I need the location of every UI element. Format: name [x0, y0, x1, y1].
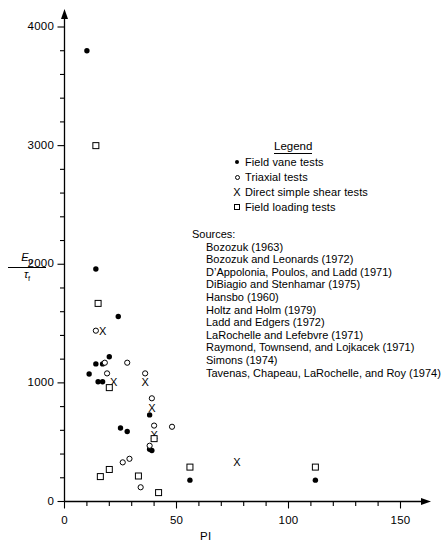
data-point-open-square — [187, 464, 193, 470]
data-point-open-circle — [169, 424, 174, 429]
legend-title: Legend — [274, 140, 312, 154]
filled-circle-icon — [229, 155, 245, 169]
data-point-open-square — [95, 300, 101, 306]
data-point-x: X — [233, 456, 241, 468]
legend-item-label: Field vane tests — [245, 156, 324, 168]
data-point-filled-circle — [125, 429, 130, 434]
data-point-open-square — [106, 385, 112, 391]
x-tick-label-0: 0 — [45, 514, 85, 526]
data-point-filled-circle — [313, 477, 318, 482]
legend-item-1: Field vane tests — [229, 155, 429, 169]
source-item-8: LaRochelle and Lefebvre (1971) — [206, 329, 441, 342]
data-point-open-circle — [147, 443, 152, 448]
legend: Legend Field vane testsTriaxial testsXDi… — [229, 136, 429, 214]
data-point-filled-circle — [84, 48, 89, 53]
source-item-11: Tavenas, Chapeau, LaRochelle, and Roy (1… — [206, 367, 441, 380]
y-tick-label-4000: 4000 — [8, 20, 54, 32]
x-tick-label-150: 150 — [381, 514, 421, 526]
data-point-x: X — [141, 376, 149, 388]
data-point-filled-circle — [86, 371, 91, 376]
open-square-icon — [229, 200, 245, 214]
open-circle-icon — [229, 170, 245, 184]
source-item-7: Ladd and Edgers (1972) — [206, 316, 441, 329]
data-point-filled-circle — [93, 266, 98, 271]
legend-item-label: Triaxial tests — [245, 171, 308, 183]
data-point-open-circle — [138, 485, 143, 490]
data-point-open-circle — [125, 360, 130, 365]
source-item-5: Hansbo (1960) — [206, 291, 441, 304]
data-point-open-circle — [152, 423, 157, 428]
data-point-filled-circle — [93, 361, 98, 366]
data-point-open-circle — [149, 396, 154, 401]
y-tick-label-3000: 3000 — [8, 139, 54, 151]
legend-item-4: Field loading tests — [229, 200, 429, 214]
y-axis-ticks — [58, 27, 65, 502]
source-item-3: D’Appolonia, Poulos, and Ladd (1971) — [206, 266, 441, 279]
data-point-open-circle — [104, 371, 109, 376]
x-axis-arrowhead — [421, 498, 431, 505]
x-icon: X — [229, 185, 245, 199]
data-point-open-square — [135, 473, 141, 479]
data-point-open-circle — [93, 328, 98, 333]
source-item-9: Raymond, Townsend, and Lojkacek (1971) — [206, 341, 441, 354]
data-point-filled-circle — [116, 314, 121, 319]
y-tick-label-2000: 2000 — [8, 257, 54, 269]
data-point-filled-circle — [118, 425, 123, 430]
y-axis-title-denominator: τf — [8, 267, 46, 283]
data-point-open-square — [97, 474, 103, 480]
legend-item-label: Field loading tests — [245, 201, 336, 213]
source-item-2: Bozozuk and Leonards (1972) — [206, 253, 441, 266]
y-axis-arrowhead — [61, 9, 68, 19]
legend-items: Field vane testsTriaxial testsXDirect si… — [229, 155, 429, 214]
source-item-4: DiBiagio and Stenhamar (1975) — [206, 278, 441, 291]
x-tick-label-100: 100 — [269, 514, 309, 526]
legend-item-3: XDirect simple shear tests — [229, 185, 429, 199]
source-item-6: Holtz and Holm (1979) — [206, 304, 441, 317]
y-tick-label-1000: 1000 — [8, 376, 54, 388]
data-point-open-circle — [120, 460, 125, 465]
legend-item-label: Direct simple shear tests — [245, 186, 368, 198]
data-point-open-square — [151, 436, 157, 442]
data-point-open-square — [93, 143, 99, 149]
sources-list: Bozozuk (1963)Bozozuk and Leonards (1972… — [192, 241, 441, 380]
data-point-open-square — [106, 466, 112, 472]
data-point-x: X — [148, 402, 156, 414]
x-axis-title: PI — [200, 530, 212, 542]
source-item-1: Bozozuk (1963) — [206, 241, 441, 254]
data-point-filled-circle — [100, 379, 105, 384]
x-tick-label-50: 50 — [157, 514, 197, 526]
sources-block: Sources: Bozozuk (1963)Bozozuk and Leona… — [192, 228, 441, 379]
sources-heading: Sources: — [192, 228, 441, 241]
data-point-open-square — [156, 490, 162, 496]
data-point-filled-circle — [187, 477, 192, 482]
data-point-x: X — [99, 325, 107, 337]
y-tick-label-0: 0 — [8, 495, 54, 507]
legend-item-2: Triaxial tests — [229, 170, 429, 184]
data-point-open-circle — [102, 360, 107, 365]
data-point-filled-circle — [107, 354, 112, 359]
data-point-open-circle — [127, 456, 132, 461]
data-point-open-square — [312, 464, 318, 470]
source-item-10: Simons (1974) — [206, 354, 441, 367]
x-axis-ticks — [65, 502, 401, 509]
